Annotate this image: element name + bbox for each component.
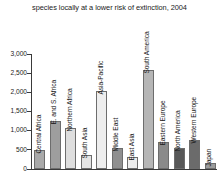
y-axis-tick-label: 2,500 [1,70,27,77]
y-axis-tick [27,111,31,112]
bar[interactable] [50,121,61,169]
bar[interactable] [127,157,138,169]
y-axis-tick [27,169,31,170]
y-axis-tick-label: 2,000 [1,89,27,96]
bar[interactable] [34,150,45,169]
y-axis-tick-label: 0 [1,166,27,173]
bar[interactable] [143,70,154,169]
y-axis-tick [27,54,31,55]
bar[interactable] [189,140,200,169]
bar[interactable] [112,148,123,169]
y-axis-tick-label: 1,500 [1,108,27,115]
y-axis-tick [27,92,31,93]
x-axis-line [31,169,217,170]
y-axis-labels: 05001,0001,5002,0002,5003,000 [0,0,27,176]
bars-container [32,54,218,169]
bar[interactable] [205,163,216,169]
bar[interactable] [81,155,92,169]
y-axis-tick [27,149,31,150]
chart-title: species locally at a lower risk of extin… [0,3,219,12]
y-axis-tick [27,130,31,131]
bar[interactable] [158,142,169,169]
y-axis-tick [27,73,31,74]
y-axis-tick-label: 3,000 [1,51,27,58]
bar[interactable] [174,148,185,169]
bar[interactable] [96,91,107,169]
y-axis-tick-label: 1,000 [1,127,27,134]
bar-chart: species locally at a lower risk of extin… [0,0,219,176]
bar[interactable] [65,128,76,169]
y-axis-tick-label: 500 [1,147,27,154]
